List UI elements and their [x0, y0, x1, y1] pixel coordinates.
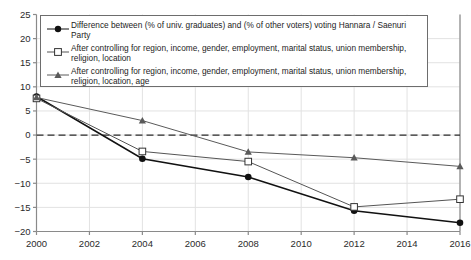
chart-container: 2520151050−5−10−15−20 200020022004200620…	[0, 0, 471, 260]
legend-item-difference: Difference between (% of univ. graduates…	[45, 20, 423, 40]
svg-text:2016: 2016	[449, 238, 470, 249]
svg-text:2006: 2006	[185, 238, 206, 249]
svg-text:−5: −5	[20, 154, 31, 165]
filled-triangle-icon	[45, 67, 71, 79]
svg-text:2014: 2014	[396, 238, 417, 249]
open-square-icon	[45, 44, 71, 56]
svg-text:2000: 2000	[26, 238, 47, 249]
svg-text:−15: −15	[14, 202, 30, 213]
filled-circle-icon	[45, 21, 71, 33]
svg-text:0: 0	[25, 129, 30, 140]
svg-text:−10: −10	[14, 178, 30, 189]
x-axis-tick-labels: 200020022004200620082010201220142016	[26, 238, 471, 249]
svg-text:20: 20	[20, 33, 31, 44]
svg-text:2008: 2008	[238, 238, 259, 249]
svg-text:2010: 2010	[291, 238, 312, 249]
svg-text:5: 5	[25, 105, 30, 116]
svg-text:10: 10	[20, 81, 31, 92]
y-axis-tick-labels: 2520151050−5−10−15−20	[14, 9, 30, 237]
legend-item-controls-no-age: After controlling for region, income, ge…	[45, 43, 423, 63]
svg-text:2002: 2002	[79, 238, 100, 249]
svg-text:2004: 2004	[132, 238, 153, 249]
legend-item-label: After controlling for region, income, ge…	[71, 66, 406, 86]
svg-text:2012: 2012	[344, 238, 365, 249]
chart-legend: Difference between (% of univ. graduates…	[40, 15, 428, 87]
legend-item-label: Difference between (% of univ. graduates…	[71, 20, 423, 40]
svg-text:25: 25	[20, 9, 31, 20]
svg-text:15: 15	[20, 57, 31, 68]
legend-item-label: After controlling for region, income, ge…	[71, 43, 406, 63]
legend-item-controls-with-age: After controlling for region, income, ge…	[45, 66, 423, 86]
svg-text:−20: −20	[14, 226, 30, 237]
